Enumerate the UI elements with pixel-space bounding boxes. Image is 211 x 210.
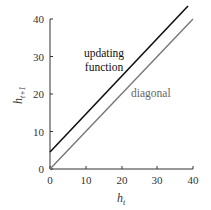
y-tick-label: 30: [33, 51, 45, 63]
x-tick-label: 30: [152, 174, 164, 186]
y-axis-label-subscript: t+1: [18, 86, 27, 98]
y-tick-label: 20: [33, 88, 45, 100]
x-tick-label: 20: [117, 174, 129, 186]
x-axis-label: ht: [117, 191, 126, 207]
x-tick-label: 10: [81, 174, 93, 186]
annotation-updating-function-line1: updating: [84, 47, 124, 60]
y-tick-label: 40: [33, 13, 45, 25]
y-axis-label: ht+1: [11, 86, 27, 104]
x-axis-label-subscript: t: [123, 198, 126, 207]
x-tick-label: 40: [188, 174, 200, 186]
y-tick-labels: 0 10 20 30 40: [33, 13, 45, 175]
annotation-updating-function-line2: function: [85, 61, 124, 73]
annotation-diagonal: diagonal: [131, 87, 171, 100]
updating-function-line: [50, 6, 188, 152]
y-tick-label: 0: [39, 163, 45, 175]
x-tick-labels: 0 10 20 30 40: [47, 174, 199, 186]
diagonal-line: [50, 19, 193, 169]
chart: 0 10 20 30 40 0 10 20 30 40 updating fun…: [0, 0, 211, 210]
x-tick-label: 0: [47, 174, 53, 186]
y-tick-label: 10: [33, 126, 45, 138]
